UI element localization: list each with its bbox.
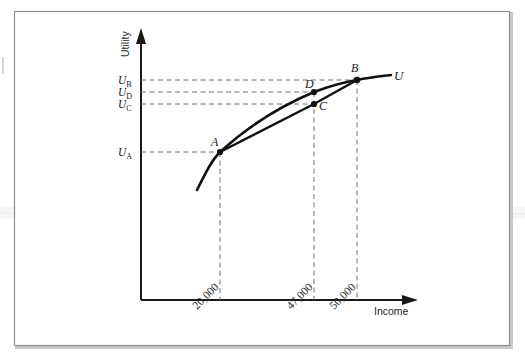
point-label-a: A xyxy=(210,135,219,149)
figure-container: Utility Income A D C B U xyxy=(0,0,525,360)
y-axis-title: Utility xyxy=(119,31,131,57)
curve-label-u: U xyxy=(394,68,405,83)
point-marker-b xyxy=(354,77,361,84)
y-tick-ud-sub: D xyxy=(126,92,132,101)
point-label-c: C xyxy=(319,99,328,113)
y-tick-ub-sub: B xyxy=(126,80,131,89)
y-tick-uc-sub: C xyxy=(126,104,131,113)
x-axis-title: Income xyxy=(374,305,409,317)
point-marker-c xyxy=(311,101,317,107)
diagram-canvas: Utility Income A D C B U xyxy=(0,0,525,360)
figure-frame xyxy=(15,12,510,346)
point-label-b: B xyxy=(351,61,359,75)
y-tick-ua-sub: A xyxy=(126,152,132,161)
point-marker-a xyxy=(217,149,223,155)
point-label-d: D xyxy=(304,77,314,91)
